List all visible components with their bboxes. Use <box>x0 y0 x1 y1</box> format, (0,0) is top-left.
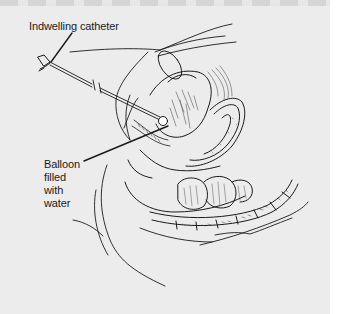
body-contour <box>70 24 236 286</box>
bowel-shading <box>184 182 246 206</box>
uterus <box>186 98 245 166</box>
bowel-loops <box>178 176 252 209</box>
balloon-label-line: filled <box>44 171 104 184</box>
sacrum-texture <box>182 190 288 226</box>
catheter-label: Indwelling catheter <box>29 20 119 33</box>
pelvis-catheter-illustration <box>0 0 346 314</box>
back-contour <box>140 202 308 245</box>
balloon-leader-line <box>84 126 168 161</box>
balloon-icon <box>159 117 168 126</box>
balloon-label-line: water <box>44 197 104 210</box>
balloon-label-line: with <box>44 184 104 197</box>
figure-page: Indwelling catheter Balloon filled with … <box>0 0 346 314</box>
lower-organs <box>125 150 245 212</box>
catheter-funnel-icon <box>38 55 50 71</box>
balloon-label-line: Balloon <box>44 158 104 171</box>
catheter-leader-line <box>51 33 72 62</box>
catheter-tube <box>50 62 160 120</box>
balloon-label: Balloon filled with water <box>44 158 104 210</box>
bladder-shading <box>170 90 198 128</box>
pubic-bone <box>153 47 186 84</box>
urethra-texture <box>138 124 160 142</box>
